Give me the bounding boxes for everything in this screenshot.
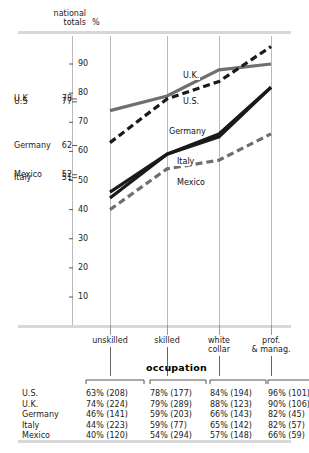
national-total-value: 51 xyxy=(56,174,72,182)
table-row-country: Italy xyxy=(22,422,39,430)
table-cell: 66% (59) xyxy=(268,432,309,440)
y-tick-label: 50 xyxy=(78,177,88,185)
y-tick-label: 10 xyxy=(78,293,88,301)
table-cell: 66% (143) xyxy=(210,411,266,419)
national-total-value: 77 xyxy=(56,98,72,106)
plot-area xyxy=(0,0,309,453)
x-category-label-3: prof.& manag. xyxy=(233,336,309,354)
y-tick-label: 40 xyxy=(78,206,88,214)
table-cell: 59% (203) xyxy=(150,411,206,419)
series-label: Italy xyxy=(176,158,195,166)
table-row-country: Mexico xyxy=(22,432,50,440)
x-category-line2: & manag. xyxy=(251,345,290,354)
series-label: U.K. xyxy=(182,72,200,80)
column-bracket-0 xyxy=(86,380,144,384)
y-tick-label: 60 xyxy=(78,147,88,155)
y-tick-label: 70 xyxy=(78,118,88,126)
table-cell: 40% (120) xyxy=(86,432,144,440)
table-row-country: U.K. xyxy=(22,401,38,409)
x-category-line1: skilled xyxy=(154,336,179,345)
occupation-brackets xyxy=(86,380,309,384)
y-tick-label: 20 xyxy=(78,264,88,272)
column-bracket-1 xyxy=(150,380,206,384)
y-tick-label: 30 xyxy=(78,235,88,243)
table-cell: 54% (294) xyxy=(150,432,206,440)
x-category-line1: prof. xyxy=(262,336,280,345)
y-tick-label: 80 xyxy=(78,89,88,97)
table-cell: 96% (101) xyxy=(268,390,309,398)
y-tick-label: 90 xyxy=(78,60,88,68)
series-label: U.S. xyxy=(182,98,200,106)
occupation-axis-label: occupation xyxy=(146,362,207,373)
table-row-country: Germany xyxy=(22,411,59,419)
table-cell: 84% (194) xyxy=(210,390,266,398)
x-category-line1: white xyxy=(208,336,230,345)
column-bracket-3 xyxy=(268,380,309,384)
column-bracket-2 xyxy=(210,380,266,384)
table-cell: 59% (77) xyxy=(150,422,206,430)
table-cell: 78% (177) xyxy=(150,390,206,398)
table-cell: 82% (45) xyxy=(268,411,309,419)
table-cell: 82% (57) xyxy=(268,422,309,430)
x-category-line1: unskilled xyxy=(92,336,128,345)
table-row-country: U.S. xyxy=(22,390,38,398)
table-cell: 46% (141) xyxy=(86,411,144,419)
table-cell: 65% (142) xyxy=(210,422,266,430)
table-cell: 63% (208) xyxy=(86,390,144,398)
table-cell: 79% (289) xyxy=(150,401,206,409)
series-label: Germany xyxy=(168,128,207,136)
series-label: Mexico xyxy=(176,179,206,187)
table-cell: 44% (223) xyxy=(86,422,144,430)
national-total-value: 62 xyxy=(56,142,72,150)
table-cell: 57% (148) xyxy=(210,432,266,440)
table-cell: 88% (123) xyxy=(210,401,266,409)
x-category-line2: collar xyxy=(208,345,230,354)
chart-figure: national totals % 908070605040302010 U.K… xyxy=(0,0,309,453)
table-cell: 90% (106) xyxy=(268,401,309,409)
table-cell: 74% (224) xyxy=(86,401,144,409)
